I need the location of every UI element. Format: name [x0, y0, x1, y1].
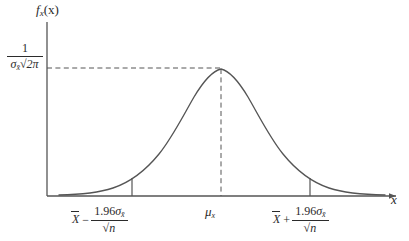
- mu-subscript: x: [212, 211, 216, 220]
- peak-height-denominator: σx̄√2π: [7, 56, 42, 72]
- margin-of-error-fraction: 1.96σx̄√n: [292, 205, 328, 235]
- sigma-subscript: x̄: [322, 210, 326, 219]
- peak-height-annotation: 1 σx̄√2π: [3, 42, 47, 72]
- tick-label-lower-bound: X−1.96σx̄√n: [71, 205, 128, 235]
- tick-label-mean: μx: [205, 205, 215, 220]
- sigma-subscript: x̄: [121, 210, 125, 219]
- square-root: √2π: [20, 57, 40, 71]
- margin-denominator: √n: [292, 220, 328, 235]
- margin-denominator: √n: [91, 220, 127, 235]
- radicand: 2π: [26, 56, 40, 71]
- tick-label-upper-bound: X+1.96σx̄√n: [272, 205, 329, 235]
- sample-mean-symbol: X: [272, 212, 281, 226]
- lower-bound-expression: X−1.96σx̄√n: [71, 205, 128, 235]
- margin-numerator: 1.96σx̄: [292, 205, 328, 220]
- z-coefficient: 1.96: [295, 204, 316, 218]
- y-axis-label-argument: (x): [44, 2, 59, 17]
- peak-height-fraction: 1 σx̄√2π: [7, 42, 42, 72]
- z-coefficient: 1.96: [94, 204, 115, 218]
- minus-operator: −: [80, 214, 91, 227]
- normal-distribution-figure: fx(x) x 1 σx̄√2π X−1.96σx̄√n μx X+1.96σx…: [0, 0, 409, 241]
- upper-bound-expression: X+1.96σx̄√n: [272, 205, 329, 235]
- y-axis-label: fx(x): [36, 3, 59, 18]
- margin-numerator: 1.96σx̄: [91, 205, 127, 220]
- square-root: √n: [304, 221, 318, 235]
- x-axis-label: x: [391, 193, 397, 207]
- margin-of-error-fraction: 1.96σx̄√n: [91, 205, 127, 235]
- radicand: n: [309, 220, 317, 235]
- plus-operator: +: [281, 214, 292, 227]
- sample-mean-symbol: X: [71, 212, 80, 226]
- square-root: √n: [103, 221, 117, 235]
- gaussian-curve: [59, 69, 385, 195]
- radicand: n: [108, 220, 116, 235]
- peak-height-numerator: 1: [7, 42, 42, 56]
